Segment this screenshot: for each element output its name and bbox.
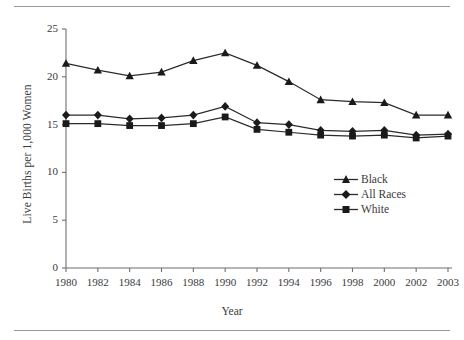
y-tick-label: 0 — [30, 262, 58, 273]
y-tick-label: 5 — [30, 214, 58, 225]
x-tick-label: 1988 — [176, 277, 210, 288]
diamond-marker-icon — [334, 188, 358, 201]
figure-container: Live Births per 1,000 Women Year 0510152… — [0, 0, 464, 340]
legend-label-black: Black — [361, 173, 388, 186]
x-tick-label: 1990 — [208, 277, 242, 288]
x-tick-label: 1992 — [240, 277, 274, 288]
x-tick-label: 2002 — [399, 277, 433, 288]
y-tick-label: 25 — [30, 23, 58, 34]
x-tick-label: 2000 — [367, 277, 401, 288]
y-tick-label: 15 — [30, 119, 58, 130]
y-tick-label: 20 — [30, 71, 58, 82]
x-tick-label: 2003 — [431, 277, 464, 288]
legend-item-white: White — [334, 202, 406, 217]
line-chart-plot — [0, 0, 464, 340]
x-tick-label: 1986 — [145, 277, 179, 288]
x-tick-label: 1996 — [304, 277, 338, 288]
legend-item-all-races: All Races — [334, 187, 406, 202]
legend-item-black: Black — [334, 172, 406, 187]
legend-label-white: White — [361, 203, 389, 216]
triangle-marker-icon — [334, 173, 358, 186]
chart-svg — [0, 0, 464, 340]
x-tick-label: 1994 — [272, 277, 306, 288]
x-tick-label: 1998 — [336, 277, 370, 288]
y-tick-label: 10 — [30, 166, 58, 177]
square-marker-icon — [334, 203, 358, 216]
x-tick-label: 1982 — [81, 277, 115, 288]
chart-legend: Black All Races White — [334, 172, 406, 217]
x-tick-label: 1980 — [49, 277, 83, 288]
legend-label-all-races: All Races — [361, 188, 406, 201]
x-axis-title: Year — [0, 305, 464, 317]
x-tick-label: 1984 — [113, 277, 147, 288]
